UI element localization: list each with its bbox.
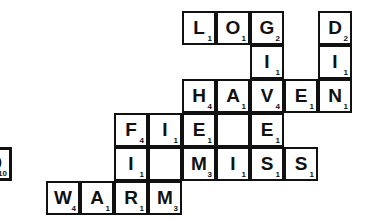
board-cell-empty bbox=[216, 113, 250, 147]
board-tile[interactable]: I1 bbox=[216, 147, 250, 181]
tile-point-value: 1 bbox=[242, 34, 246, 43]
board-tile[interactable]: N1 bbox=[318, 79, 352, 113]
tile-point-value: 1 bbox=[276, 68, 280, 77]
tile-point-value: 1 bbox=[140, 170, 144, 179]
tile-point-value: 2 bbox=[344, 34, 348, 43]
tile-point-value: 1 bbox=[276, 136, 280, 145]
board-tile[interactable]: E1 bbox=[284, 79, 318, 113]
board-tile[interactable]: A1 bbox=[216, 79, 250, 113]
tile-point-value: 1 bbox=[344, 102, 348, 111]
board-tile[interactable]: S1 bbox=[284, 147, 318, 181]
board-tile[interactable]: A1 bbox=[80, 181, 114, 215]
board-tile[interactable]: D2 bbox=[318, 11, 352, 45]
tile-point-value: 1 bbox=[208, 136, 212, 145]
tile-point-value: 4 bbox=[208, 102, 212, 111]
board-tile[interactable]: M3 bbox=[148, 181, 182, 215]
tile-point-value: 1 bbox=[276, 170, 280, 179]
board-tile[interactable]: R1 bbox=[114, 181, 148, 215]
tile-point-value: 10 bbox=[0, 169, 7, 178]
board-tile[interactable]: S1 bbox=[250, 147, 284, 181]
scrabble-board: L1O1G2D2I1I1H4A1V4E1N1F4I1E1E1I1M3I1S1S1… bbox=[0, 0, 378, 220]
tile-point-value: 1 bbox=[242, 170, 246, 179]
tile-point-value: 1 bbox=[310, 102, 314, 111]
board-cell-empty bbox=[148, 147, 182, 181]
tile-point-value: 4 bbox=[276, 102, 280, 111]
board-tile[interactable]: I1 bbox=[114, 147, 148, 181]
board-tile[interactable]: W4 bbox=[46, 181, 80, 215]
board-tile[interactable]: I1 bbox=[318, 45, 352, 79]
board-tile[interactable]: H4 bbox=[182, 79, 216, 113]
tile-point-value: 1 bbox=[140, 204, 144, 213]
board-tile[interactable]: G2 bbox=[250, 11, 284, 45]
tile-point-value: 2 bbox=[276, 34, 280, 43]
board-tile[interactable]: F4 bbox=[114, 113, 148, 147]
tile-point-value: 4 bbox=[72, 204, 76, 213]
board-tile[interactable]: V4 bbox=[250, 79, 284, 113]
tile-point-value: 1 bbox=[310, 170, 314, 179]
tile-point-value: 4 bbox=[140, 136, 144, 145]
tile-point-value: 1 bbox=[174, 136, 178, 145]
board-tile[interactable]: L1 bbox=[182, 11, 216, 45]
board-tile[interactable]: E1 bbox=[250, 113, 284, 147]
tile-point-value: 1 bbox=[106, 204, 110, 213]
tile-point-value: 1 bbox=[344, 68, 348, 77]
tile-point-value: 3 bbox=[174, 204, 178, 213]
board-tile[interactable]: E1 bbox=[182, 113, 216, 147]
tile-point-value: 1 bbox=[208, 34, 212, 43]
board-tile[interactable]: I1 bbox=[250, 45, 284, 79]
board-tile[interactable]: M3 bbox=[182, 147, 216, 181]
tile-point-value: 3 bbox=[208, 170, 212, 179]
tile-point-value: 1 bbox=[242, 102, 246, 111]
board-tile[interactable]: I1 bbox=[148, 113, 182, 147]
loose-tile[interactable]: Q10 bbox=[0, 147, 12, 181]
board-tile[interactable]: O1 bbox=[216, 11, 250, 45]
